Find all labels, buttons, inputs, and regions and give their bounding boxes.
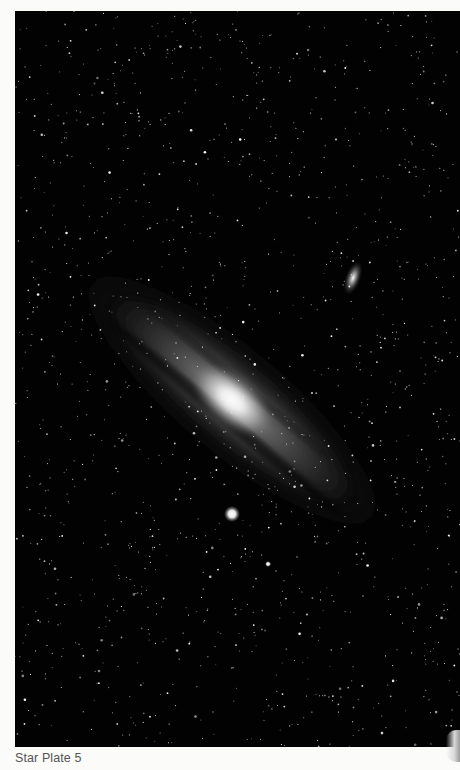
galaxy-photograph: [15, 11, 460, 747]
star-plate-image: [15, 11, 460, 747]
satellite-galaxy-bright: [224, 506, 240, 522]
page-edge-shadow: [446, 730, 460, 762]
figure-caption: Star Plate 5: [15, 751, 82, 765]
